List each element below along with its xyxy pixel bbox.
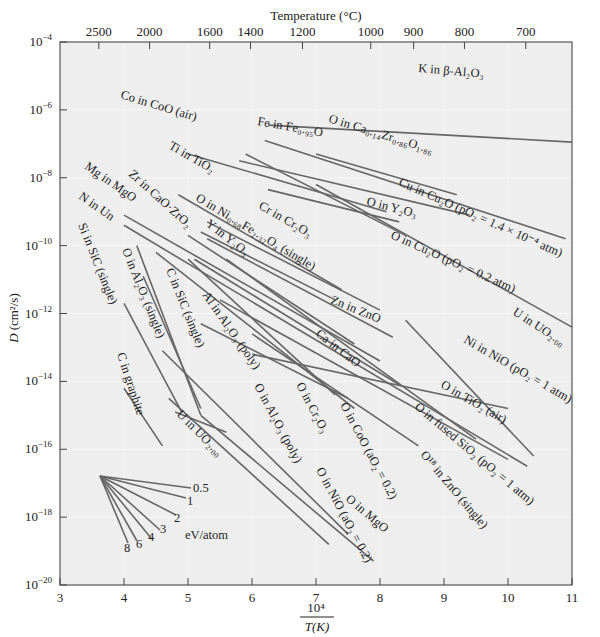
svg-text:T(K): T(K) bbox=[305, 619, 330, 634]
fan-label-1: 1 bbox=[187, 494, 193, 508]
top-tick-label: 2500 bbox=[86, 24, 112, 39]
svg-text:D(cm²/s): D(cm²/s) bbox=[6, 293, 21, 344]
x-tick-label: 4 bbox=[121, 590, 128, 605]
y-axis-title: D(cm²/s) bbox=[6, 293, 21, 344]
top-tick-label: 900 bbox=[404, 24, 424, 39]
top-tick-label: 800 bbox=[455, 24, 475, 39]
top-tick-label: 1200 bbox=[289, 24, 315, 39]
y-tick-label: 10−20 bbox=[25, 575, 53, 592]
x-tick-label: 10 bbox=[502, 590, 515, 605]
y-tick-label: 10−18 bbox=[25, 507, 53, 524]
y-tick-label: 10−6 bbox=[29, 100, 52, 117]
y-tick-label: 10−16 bbox=[25, 439, 53, 456]
y-tick-label: 10−10 bbox=[25, 236, 53, 253]
fan-label-2: 2 bbox=[174, 511, 180, 525]
y-tick-label: 10−4 bbox=[29, 32, 52, 49]
fan-label-6: 6 bbox=[136, 537, 142, 551]
x-tick-label: 3 bbox=[57, 590, 64, 605]
y-tick-label: 10−8 bbox=[29, 168, 52, 185]
top-tick-label: 1600 bbox=[197, 24, 223, 39]
top-tick-label: 2000 bbox=[137, 24, 163, 39]
diffusion-chart: Temperature (°C) 25002000160014001200100… bbox=[0, 0, 600, 637]
y-tick-label: 10−14 bbox=[25, 371, 53, 388]
svg-text:10⁴: 10⁴ bbox=[307, 600, 325, 615]
x-tick-label: 6 bbox=[249, 590, 256, 605]
y-tick-label: 10−12 bbox=[25, 304, 52, 321]
x-axis-title: 10⁴ T(K) bbox=[300, 600, 334, 634]
fan-label-3: 3 bbox=[160, 522, 166, 536]
top-tick-label: 1400 bbox=[238, 24, 264, 39]
x-tick-label: 8 bbox=[377, 590, 384, 605]
fan-label-0.5: 0.5 bbox=[193, 481, 209, 495]
x-tick-label: 11 bbox=[566, 590, 579, 605]
fan-unit-label: eV/atom bbox=[185, 528, 228, 542]
fan-label-8: 8 bbox=[124, 541, 130, 555]
top-axis-title: Temperature (°C) bbox=[270, 8, 361, 23]
top-tick-label: 1000 bbox=[358, 24, 384, 39]
top-tick-label: 700 bbox=[516, 24, 536, 39]
x-tick-label: 5 bbox=[185, 590, 192, 605]
fan-label-4: 4 bbox=[148, 530, 155, 544]
x-tick-label: 9 bbox=[441, 590, 448, 605]
